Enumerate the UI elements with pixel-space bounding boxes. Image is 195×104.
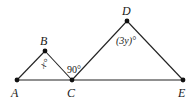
label-e: E — [177, 86, 186, 100]
angle-label-d: (3y)° — [116, 35, 136, 47]
point-a — [15, 78, 20, 83]
point-d — [125, 19, 130, 24]
segment-de — [127, 21, 183, 80]
point-c — [70, 78, 75, 83]
geometry-diagram: A B C D E x° 90° (3y)° — [0, 0, 195, 104]
point-b — [43, 49, 48, 54]
label-d: D — [121, 4, 131, 18]
label-b: B — [40, 34, 48, 48]
angle-label-b: x° — [37, 56, 51, 70]
angle-label-c: 90° — [67, 64, 81, 75]
label-c: C — [67, 86, 76, 100]
point-e — [181, 78, 186, 83]
label-a: A — [10, 86, 19, 100]
